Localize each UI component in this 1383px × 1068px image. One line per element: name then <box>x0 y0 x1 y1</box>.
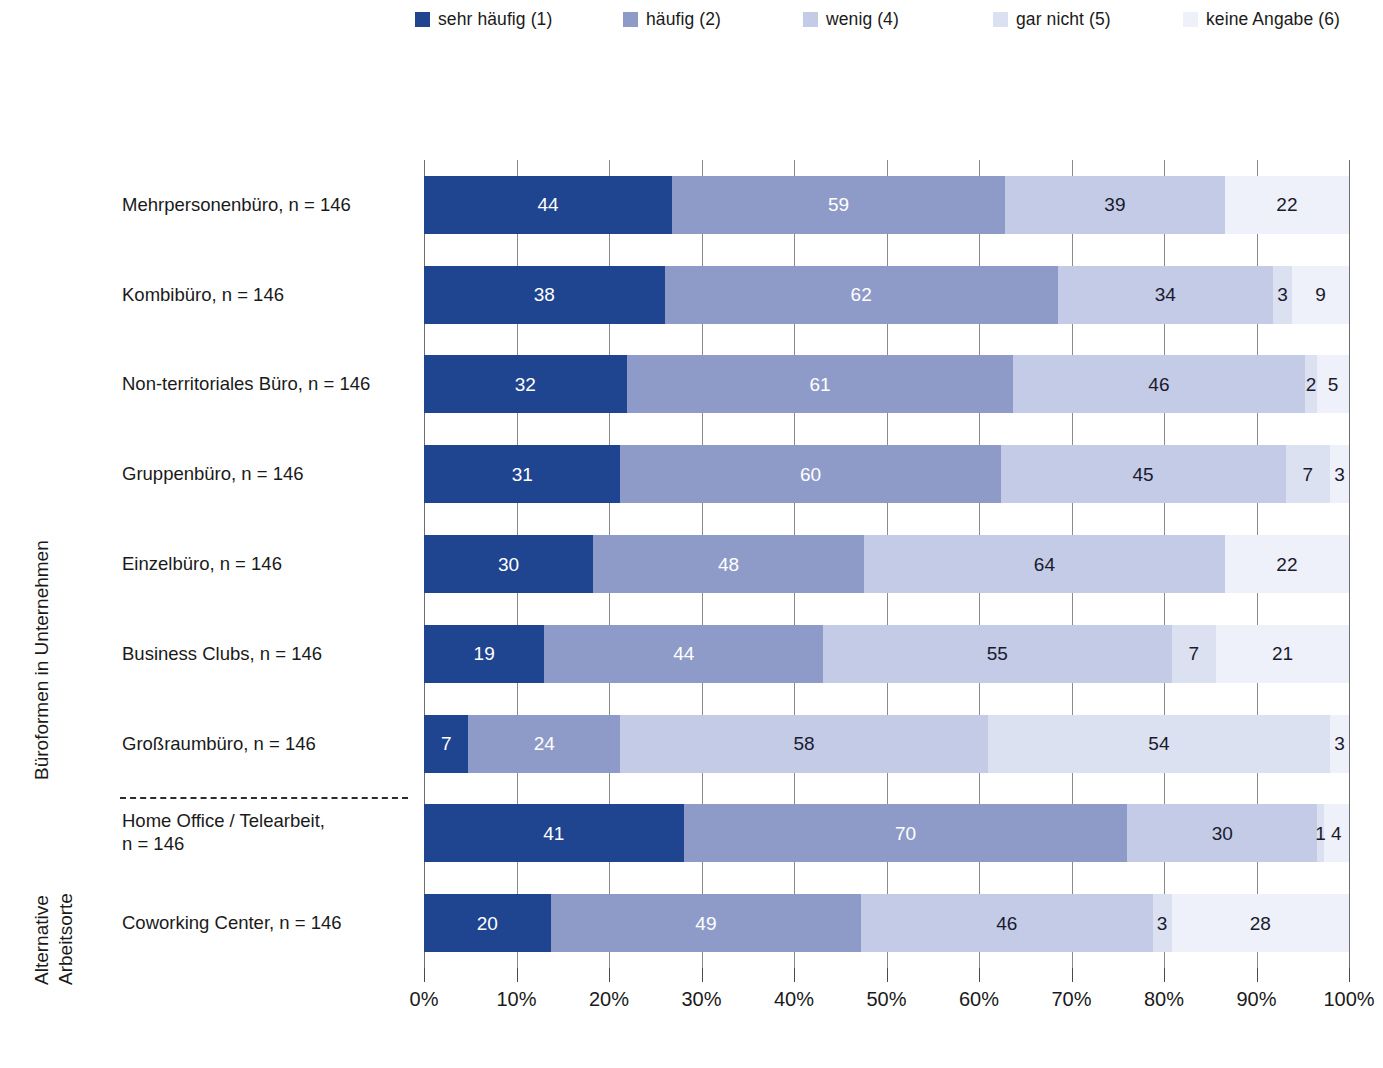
bar-segment-value: 22 <box>1276 195 1297 214</box>
x-axis-tick-label: 80% <box>1144 988 1184 1011</box>
gridline <box>1349 160 1350 968</box>
bar-segment-value: 19 <box>474 644 495 663</box>
bar-segment: 44 <box>544 625 823 683</box>
axis-title-alternative-line2: Arbeitsorte <box>54 893 78 985</box>
bar-segment: 49 <box>551 894 861 952</box>
bar-segment-value: 9 <box>1315 285 1326 304</box>
bar-row: 194455721 <box>424 625 1349 683</box>
bar-segment-value: 7 <box>1188 644 1199 663</box>
category-axis-labels: Mehrpersonenbüro, n = 146Kombibüro, n = … <box>122 160 417 968</box>
bar-segment-value: 7 <box>441 734 452 753</box>
bar-segment: 5 <box>1317 355 1349 413</box>
x-axis-tick-label: 20% <box>589 988 629 1011</box>
bar-segment-value: 30 <box>1212 824 1233 843</box>
bar-segment: 48 <box>593 535 864 593</box>
bar-row: 72458543 <box>424 715 1349 773</box>
bar-segment-value: 55 <box>987 644 1008 663</box>
legend-item-4: gar nicht (5) <box>993 9 1111 30</box>
bar-row: 204946328 <box>424 894 1349 952</box>
legend-item-1: sehr häufig (1) <box>415 9 552 30</box>
bar-segment-value: 34 <box>1155 285 1176 304</box>
bar-segment: 3 <box>1153 894 1172 952</box>
legend-label: keine Angabe (6) <box>1206 9 1340 30</box>
bar-segment-value: 22 <box>1276 555 1297 574</box>
legend-label: gar nicht (5) <box>1016 9 1111 30</box>
legend-item-3: wenig (4) <box>803 9 899 30</box>
legend-item-2: häufig (2) <box>623 9 721 30</box>
bar-segment-value: 7 <box>1302 465 1313 484</box>
bar-segment-value: 21 <box>1272 644 1293 663</box>
legend-label: wenig (4) <box>826 9 899 30</box>
category-label: Mehrpersonenbüro, n = 146 <box>122 193 417 216</box>
bar-segment: 38 <box>424 266 665 324</box>
bar-segment: 19 <box>424 625 544 683</box>
bar-segment: 28 <box>1172 894 1349 952</box>
bar-segment: 31 <box>424 445 620 503</box>
x-axis-tick <box>1349 968 1350 982</box>
bar-segment-value: 70 <box>895 824 916 843</box>
bar-segment: 46 <box>861 894 1152 952</box>
bar-segment: 22 <box>1225 535 1349 593</box>
bar-segment-value: 28 <box>1250 914 1271 933</box>
bar-segment-value: 20 <box>477 914 498 933</box>
bar-segment: 2 <box>1305 355 1318 413</box>
bar-segment-value: 46 <box>996 914 1017 933</box>
x-axis-tick <box>887 968 888 982</box>
legend-swatch-icon <box>623 12 638 27</box>
legend-label: häufig (2) <box>646 9 721 30</box>
bar-row: 32614625 <box>424 355 1349 413</box>
bar-segment: 24 <box>468 715 620 773</box>
bar-segment: 46 <box>1013 355 1304 413</box>
bar-row: 41703014 <box>424 804 1349 862</box>
bar-row: 31604573 <box>424 445 1349 503</box>
legend-item-5: keine Angabe (6) <box>1183 9 1340 30</box>
bar-segment: 61 <box>627 355 1013 413</box>
bar-segment: 20 <box>424 894 551 952</box>
legend-swatch-icon <box>993 12 1008 27</box>
category-label: Home Office / Telearbeit, n = 146 <box>122 809 417 855</box>
bar-segment-value: 31 <box>512 465 533 484</box>
bar-segment-value: 30 <box>498 555 519 574</box>
chart-page: sehr häufig (1)häufig (2)wenig (4)gar ni… <box>0 0 1383 1068</box>
bar-segment-value: 59 <box>828 195 849 214</box>
bar-segment-value: 32 <box>515 375 536 394</box>
x-axis-tick <box>702 968 703 982</box>
bar-segment-value: 24 <box>534 734 555 753</box>
x-axis-tick-label: 100% <box>1323 988 1374 1011</box>
bar-segment: 4 <box>1324 804 1349 862</box>
bar-segment-value: 3 <box>1334 734 1345 753</box>
bar-segment: 39 <box>1005 176 1225 234</box>
bar-segment: 7 <box>1172 625 1216 683</box>
bar-segment: 54 <box>988 715 1330 773</box>
bar-segment: 3 <box>1330 445 1349 503</box>
bar-segment-value: 48 <box>718 555 739 574</box>
x-axis-tick-label: 90% <box>1236 988 1276 1011</box>
axis-title-alternative: Alternative Arbeitsorte <box>30 893 78 985</box>
bar-segment: 62 <box>665 266 1058 324</box>
bar-segment-value: 3 <box>1334 465 1345 484</box>
category-label: Coworking Center, n = 146 <box>122 911 417 934</box>
bar-segment: 44 <box>424 176 672 234</box>
bar-segment-value: 62 <box>851 285 872 304</box>
bar-segment-value: 60 <box>800 465 821 484</box>
x-axis-tick <box>1164 968 1165 982</box>
category-label: Non-territoriales Büro, n = 146 <box>122 372 417 395</box>
category-label: Business Clubs, n = 146 <box>122 642 417 665</box>
bar-segment: 45 <box>1001 445 1286 503</box>
bar-segment-value: 44 <box>538 195 559 214</box>
x-axis-tick <box>979 968 980 982</box>
bar-segment: 58 <box>620 715 987 773</box>
bar-segment-value: 3 <box>1277 285 1288 304</box>
bar-segment-value: 46 <box>1148 375 1169 394</box>
category-label: Großraumbüro, n = 146 <box>122 732 417 755</box>
chart-legend: sehr häufig (1)häufig (2)wenig (4)gar ni… <box>415 8 1375 30</box>
bar-segment-value: 58 <box>794 734 815 753</box>
bar-segment: 30 <box>424 535 593 593</box>
x-axis-tick <box>609 968 610 982</box>
bar-row: 30486422 <box>424 535 1349 593</box>
bar-segment: 41 <box>424 804 684 862</box>
bar-segment-value: 54 <box>1148 734 1169 753</box>
x-axis-tick-label: 10% <box>496 988 536 1011</box>
bar-segment-value: 4 <box>1331 824 1342 843</box>
bar-segment: 32 <box>424 355 627 413</box>
